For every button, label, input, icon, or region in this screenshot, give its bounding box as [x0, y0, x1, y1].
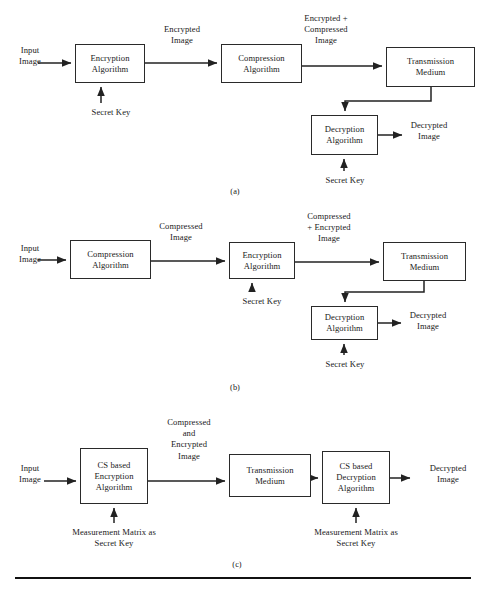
node-transmission-medium: TransmissionMedium	[383, 242, 466, 281]
text-line: Encrypted +	[288, 13, 364, 24]
decrypted-image-label: DecryptedImage	[393, 120, 465, 142]
decrypted-image-label: DecryptedImage	[392, 310, 464, 332]
node-transmission-medium: TransmissionMedium	[229, 454, 311, 497]
node-decryption-algorithm: DecryptionAlgorithm	[311, 306, 378, 340]
text-line: Decryption	[325, 312, 365, 323]
text-line: Image	[150, 451, 228, 462]
text-line: Encryption	[94, 471, 133, 482]
text-line: Decrypted	[393, 120, 465, 131]
text-line: Image	[392, 321, 464, 332]
panel-caption-c: (c)	[207, 560, 267, 569]
node-decryption-algorithm: DecryptionAlgorithm	[311, 115, 378, 155]
text-line: Algorithm	[92, 260, 129, 271]
text-line: Algorithm	[326, 323, 363, 334]
compressed-image-label: CompressedImage	[142, 221, 220, 243]
text-line: Decrypted	[392, 310, 464, 321]
text-line: Image	[8, 474, 52, 485]
text-line: Transmission	[407, 56, 454, 67]
text-line: CS based	[339, 461, 372, 472]
text-line: Secret Key	[40, 538, 188, 549]
node-compression-algorithm: CompressionAlgorithm	[221, 44, 302, 83]
encrypted-compressed-image-label: Encrypted +CompressedImage	[288, 13, 364, 47]
text-line: Transmission	[246, 465, 293, 476]
text-line: Compressed	[150, 417, 228, 428]
text-line: Compressed	[290, 211, 368, 222]
panel-caption-a: (a)	[205, 187, 265, 196]
text-line: Secret Key	[310, 359, 380, 370]
node-cs-based-decryption-algorithm: CS basedDecryptionAlgorithm	[322, 451, 390, 504]
figure-root: EncryptionAlgorithmCompressionAlgorithmT…	[0, 0, 488, 590]
text-line: CS based	[97, 460, 130, 471]
text-line: Compressed	[142, 221, 220, 232]
text-line: Encryption	[242, 250, 281, 261]
text-line: Secret Key	[227, 296, 297, 307]
text-line: Medium	[416, 67, 446, 78]
text-line: Image	[142, 232, 220, 243]
text-line: Algorithm	[92, 64, 129, 75]
text-line: Image	[146, 35, 218, 46]
panel-caption-b: (b)	[205, 383, 265, 392]
text-line: Compressed	[288, 24, 364, 35]
text-line: Secret Key	[282, 538, 430, 549]
text-line: Algorithm	[244, 261, 281, 272]
text-line: Algorithm	[96, 482, 133, 493]
conn-a-transmission-to-decryption	[345, 87, 431, 111]
text-line: Image	[8, 254, 52, 265]
text-line: Image	[8, 56, 52, 67]
text-line: Decrypted	[415, 463, 481, 474]
decrypted-image-label: DecryptedImage	[415, 463, 481, 485]
text-line: and	[150, 428, 228, 439]
text-line: Secret Key	[310, 175, 380, 186]
input-image-label: InputImage	[8, 463, 52, 485]
text-line: Algorithm	[326, 135, 363, 146]
node-cs-based-encryption-algorithm: CS basedEncryptionAlgorithm	[80, 448, 148, 504]
node-transmission-medium: TransmissionMedium	[386, 47, 475, 87]
compressed-encrypted-image-label: Compressed+ EncryptedImage	[290, 211, 368, 245]
text-line: Image	[415, 474, 481, 485]
text-line: Compression	[238, 53, 284, 64]
text-line: Transmission	[401, 251, 448, 262]
text-line: Algorithm	[338, 483, 375, 494]
text-line: Compression	[87, 249, 133, 260]
footer-divider-rule	[15, 577, 471, 579]
text-line: Image	[393, 131, 465, 142]
text-line: Medium	[410, 262, 440, 273]
text-line: Medium	[255, 476, 285, 487]
text-line: Measurement Matrix as	[40, 527, 188, 538]
measurement-matrix-secret-key-decryption: Measurement Matrix asSecret Key	[282, 527, 430, 549]
input-image-label: InputImage	[8, 243, 52, 265]
connector-layer	[0, 0, 488, 590]
input-image-label: InputImage	[8, 45, 52, 67]
text-line: Measurement Matrix as	[282, 527, 430, 538]
node-encryption-algorithm: EncryptionAlgorithm	[229, 242, 295, 279]
node-encryption-algorithm: EncryptionAlgorithm	[75, 44, 145, 83]
text-line: Algorithm	[243, 64, 280, 75]
secret-key-label-encryption: Secret Key	[76, 107, 146, 118]
conn-b-transmission-to-decryption	[345, 281, 424, 302]
text-line: Encrypted	[150, 439, 228, 450]
text-line: Image	[290, 233, 368, 244]
text-line: Decryption	[325, 124, 365, 135]
text-line: Secret Key	[76, 107, 146, 118]
node-compression-algorithm: CompressionAlgorithm	[70, 240, 151, 279]
compressed-and-encrypted-image-label: CompressedandEncryptedImage	[150, 417, 228, 462]
text-line: Image	[288, 35, 364, 46]
text-line: Encrypted	[146, 24, 218, 35]
encrypted-image-label: EncryptedImage	[146, 24, 218, 46]
text-line: Encryption	[90, 53, 129, 64]
text-line: Input	[8, 463, 52, 474]
text-line: Input	[8, 243, 52, 254]
text-line: Input	[8, 45, 52, 56]
secret-key-label-decryption: Secret Key	[310, 175, 380, 186]
secret-key-label-encryption: Secret Key	[227, 296, 297, 307]
measurement-matrix-secret-key-encryption: Measurement Matrix asSecret Key	[40, 527, 188, 549]
text-line: + Encrypted	[290, 222, 368, 233]
text-line: Decryption	[336, 472, 376, 483]
secret-key-label-decryption: Secret Key	[310, 359, 380, 370]
